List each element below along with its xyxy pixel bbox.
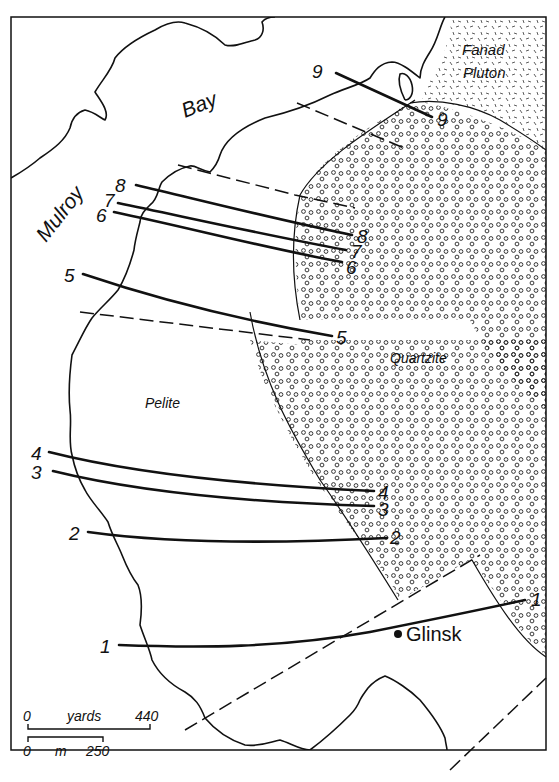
scale-meters-unit: m <box>55 743 67 759</box>
scale-meters-max: 250 <box>85 743 110 759</box>
scale-yards-zero: 0 <box>23 708 31 724</box>
coastline-north <box>11 17 275 178</box>
traverse-8-start: 8 <box>115 175 126 196</box>
island-coast <box>399 73 412 100</box>
glinsk-town-marker-icon <box>394 630 402 638</box>
scale-yards-max: 440 <box>135 708 159 724</box>
traverse-2-end: 2 <box>389 527 401 548</box>
traverse-1-end: 1 <box>531 589 542 610</box>
traverse-5-end: 5 <box>336 327 347 348</box>
label-quartzite: Quartzite <box>390 350 447 366</box>
traverse-3-start: 3 <box>31 462 42 483</box>
label-bay: Bay <box>178 86 222 121</box>
traverse-6-start: 6 <box>96 205 107 226</box>
scale-meters-zero: 0 <box>23 743 31 759</box>
traverse-9-end: 9 <box>437 109 448 130</box>
label-glinsk: Glinsk <box>406 623 463 645</box>
traverse-5-start: 5 <box>64 265 75 286</box>
traverse-9 <box>336 73 432 117</box>
label-fanad: Fanad <box>462 41 505 58</box>
label-pluton: Pluton <box>463 64 506 81</box>
traverse-1-start: 1 <box>100 636 111 657</box>
traverse-4-start: 4 <box>31 443 42 464</box>
traverse-3-end: 3 <box>378 499 389 520</box>
label-pelite: Pelite <box>145 395 180 411</box>
geological-map: 9 9 8 8 7 7 6 6 5 5 4 4 3 3 2 2 1 1 Bay … <box>0 0 559 782</box>
traverse-6-end: 6 <box>346 257 357 278</box>
scale-yards-unit: yards <box>66 708 101 724</box>
traverse-9-start: 9 <box>312 61 323 82</box>
traverse-2-start: 2 <box>68 523 80 544</box>
